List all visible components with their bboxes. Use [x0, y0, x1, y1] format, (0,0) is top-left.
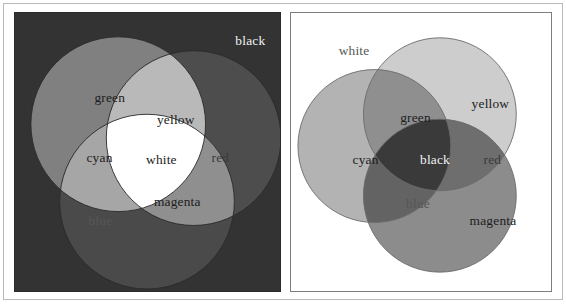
subtractive-label-cyan: cyan — [353, 152, 379, 167]
additive-label-yellow: yellow — [157, 112, 195, 127]
subtractive-label-red: red — [484, 152, 502, 167]
additive-label-red: red — [212, 150, 230, 165]
subtractive-label-yellow: yellow — [472, 96, 510, 111]
color-mixing-figure: blackgreenyellowcyanwhiteredmagentablue — [0, 0, 566, 305]
additive-label-blue: blue — [88, 213, 112, 228]
subtractive-label-white: white — [339, 43, 370, 58]
subtractive-venn-svg: whiteyellowgreencyanblackredbluemagenta — [291, 13, 551, 291]
additive-label-black: black — [235, 33, 265, 48]
subtractive-label-green: green — [400, 110, 431, 125]
additive-rgb-venn-panel: blackgreenyellowcyanwhiteredmagentablue — [14, 12, 281, 292]
subtractive-label-black: black — [420, 152, 450, 167]
additive-label-magenta: magenta — [154, 194, 201, 209]
additive-label-cyan: cyan — [86, 150, 112, 165]
additive-venn-svg: blackgreenyellowcyanwhiteredmagentablue — [15, 13, 280, 291]
additive-label-white: white — [146, 152, 177, 167]
subtractive-cmy-venn-panel: whiteyellowgreencyanblackredbluemagenta — [290, 12, 552, 292]
additive-label-green: green — [94, 90, 125, 105]
subtractive-label-magenta: magenta — [470, 213, 517, 228]
subtractive-label-blue: blue — [406, 196, 430, 211]
